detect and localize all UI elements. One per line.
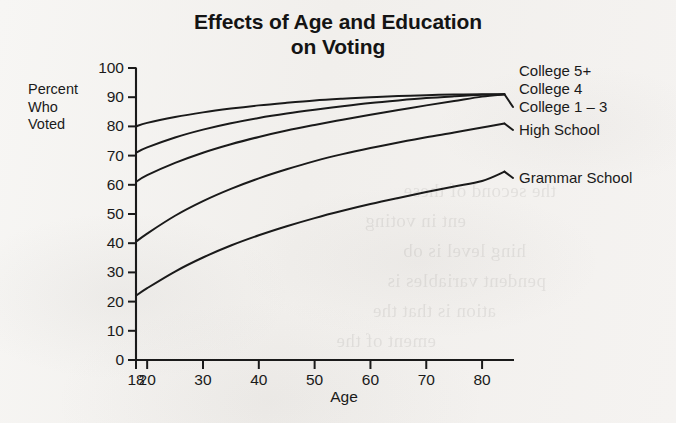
x-tick-label: 40 [239,371,279,389]
y-tick-label: 100 [90,59,124,77]
series-end-label: College 4 [519,80,582,98]
y-tick-label: 30 [90,263,124,281]
series-lines [136,94,504,296]
y-tick-label: 50 [90,205,124,223]
series-line [136,94,504,126]
y-axis-title: Percent Who Voted [28,81,78,134]
y-axis-title-line1: Percent [28,81,78,99]
x-tick-label: 20 [127,371,167,389]
series-line [136,172,504,296]
series-line [136,123,504,241]
axis-lines [135,68,514,361]
y-tick-label: 0 [90,351,124,369]
y-tick-label: 20 [90,293,124,311]
chart-title: Effects of Age and Education on Voting [0,10,676,60]
y-tick-label: 90 [90,88,124,106]
y-axis-title-line3: Voted [28,116,78,134]
y-tick-label: 10 [90,322,124,340]
series-end-label: Grammar School [519,169,632,187]
x-tick-label: 60 [350,371,390,389]
label-leader-lines [504,94,513,178]
y-tick-label: 40 [90,234,124,252]
axis-tick-marks [128,68,482,369]
series-end-label: College 1 – 3 [519,98,607,116]
y-axis-title-line2: Who [28,99,78,117]
x-tick-label: 70 [406,371,446,389]
chart-page: the second of theseent in votinghing lev… [0,0,676,423]
y-tick-label: 80 [90,117,124,135]
series-end-label: College 5+ [519,62,591,80]
series-end-label: High School [519,121,600,139]
x-tick-label: 50 [295,371,335,389]
x-axis-title: Age [314,388,374,406]
y-tick-label: 60 [90,176,124,194]
series-line [136,94,504,182]
x-tick-label: 30 [183,371,223,389]
chart-title-line2: on Voting [0,35,676,60]
x-tick-label: 80 [462,371,502,389]
y-tick-label: 70 [90,147,124,165]
chart-title-line1: Effects of Age and Education [194,10,482,33]
